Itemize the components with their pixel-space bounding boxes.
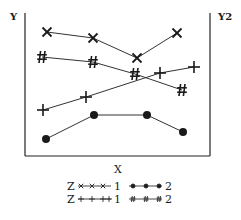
plus-marker-icon (188, 61, 200, 73)
plus-marker-icon (154, 67, 166, 79)
plus-marker-icon (80, 91, 92, 103)
legend-sample-plus (78, 196, 112, 202)
x-marker-icon (173, 29, 182, 38)
dot-marker-icon (131, 184, 135, 188)
series-x (43, 28, 182, 63)
legend-row2-index1: 1 (114, 194, 121, 205)
legend-sample-dot (129, 184, 162, 188)
legend-row1-index1: 1 (114, 181, 121, 192)
plus-marker-icon (106, 196, 112, 202)
series-line (43, 67, 194, 110)
dot-marker-icon (90, 111, 98, 119)
dot-marker-icon (144, 184, 148, 188)
series-layer (37, 28, 200, 144)
x-marker-icon (133, 54, 142, 63)
dot-marker-icon (42, 135, 50, 143)
dot-marker-icon (157, 184, 161, 188)
dot-marker-icon (143, 111, 151, 119)
series-dot (42, 111, 187, 143)
y2-axis-label: Y2 (218, 12, 232, 22)
plus-marker-icon (78, 196, 84, 202)
plus-marker-icon (100, 196, 106, 202)
series-line (46, 115, 183, 139)
legend-z-row2: Z (67, 194, 75, 205)
y-axis-label: Y (10, 12, 17, 22)
plus-marker-icon (89, 196, 95, 202)
x-axis-label: X (114, 164, 122, 175)
dot-marker-icon (179, 128, 187, 136)
legend-sample-x (78, 184, 111, 189)
plus-marker-icon (37, 104, 49, 116)
legend-z-row1: Z (67, 181, 75, 192)
legend-row2-index2: 2 (165, 194, 172, 205)
legend-sample-hash (129, 196, 162, 202)
legend-row1-index2: 2 (165, 181, 172, 192)
series-line (47, 32, 177, 58)
